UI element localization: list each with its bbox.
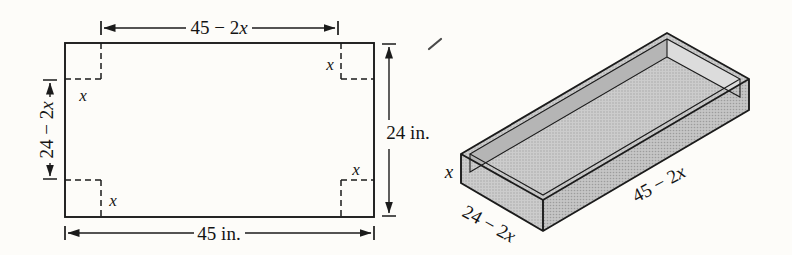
corner-label-top-left: x: [78, 86, 87, 105]
corner-label-top-right: x: [325, 55, 334, 74]
bottom-dimension-label: 45 in.: [197, 223, 240, 244]
bottom-dimension: 45 in.: [65, 223, 374, 244]
left-dimension: 24 − 2x: [36, 80, 57, 179]
top-dimension-label: 45 − 2x: [190, 17, 248, 38]
corner-label-bottom-right: x: [351, 160, 360, 179]
top-dimension: 45 − 2x: [101, 17, 338, 38]
stray-pen-mark: [429, 39, 441, 49]
folded-box-figure: x 24 − 2x 45 − 2x: [444, 33, 749, 247]
diagram-canvas: x x x x 45 − 2x 24 − 2x 24 in.: [0, 0, 792, 255]
box-folding-diagram: x x x x 45 − 2x 24 − 2x 24 in.: [0, 0, 792, 255]
right-dimension-label: 24 in.: [386, 122, 429, 143]
left-dimension-variable: x: [36, 101, 57, 111]
right-dimension: 24 in.: [382, 44, 430, 216]
top-dimension-variable: x: [238, 17, 248, 38]
cut-corner-top-right: [341, 43, 374, 79]
cut-corner-bottom-left: [65, 180, 101, 217]
flat-sheet-figure: x x x x 45 − 2x 24 − 2x 24 in.: [36, 17, 430, 244]
corner-label-bottom-left: x: [108, 191, 117, 210]
left-dimension-label: 24 − 2x: [36, 101, 57, 159]
cut-corner-top-left: [65, 43, 101, 79]
box-depth-label: x: [444, 161, 454, 182]
top-dimension-number: 45 − 2: [190, 17, 239, 38]
left-dimension-number: 24 − 2: [36, 110, 57, 159]
cut-corner-bottom-right: [341, 180, 374, 217]
